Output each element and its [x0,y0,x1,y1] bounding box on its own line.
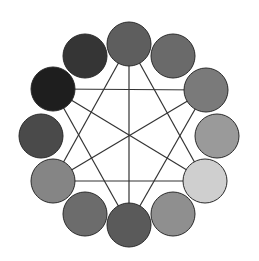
color-circle-pos-10 [31,67,75,111]
color-circle-pos-2 [184,68,228,112]
color-wheel-diagram [0,0,259,261]
color-circle-pos-6 [107,203,151,247]
color-circle-pos-3 [195,114,239,158]
color-circle-pos-5 [151,192,195,236]
color-circle-pos-1 [151,34,195,78]
color-circle-pos-8 [31,159,75,203]
color-circle-pos-7 [63,192,107,236]
edge-line-pos-10-pos-2 [53,89,206,90]
color-circle-pos-12 [107,22,151,66]
color-circle-pos-11 [63,34,107,78]
color-circle-pos-9 [19,114,63,158]
color-circle-pos-4 [183,159,227,203]
